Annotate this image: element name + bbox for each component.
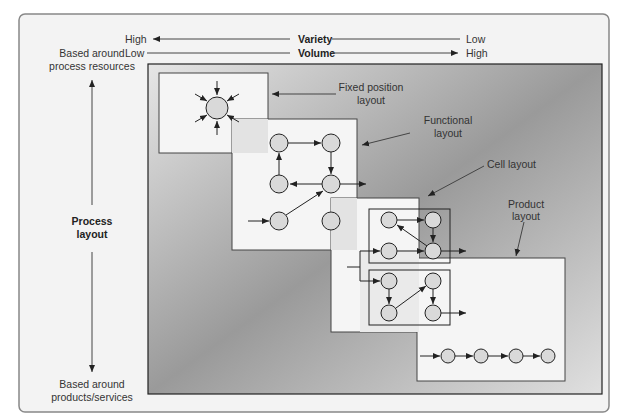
variety-right-label: Low <box>466 33 486 45</box>
process-layout-label-line2: layout <box>77 228 108 240</box>
top-label-line1: Based around <box>59 47 125 59</box>
svg-text:Fixed position: Fixed position <box>339 81 404 93</box>
variety-label: Variety <box>298 33 333 45</box>
volume-right-label: High <box>466 47 488 59</box>
svg-text:layout: layout <box>357 94 385 106</box>
top-label-line2: process resources <box>49 60 135 72</box>
volume-left-label: Low <box>125 47 145 59</box>
svg-text:Cell layout: Cell layout <box>487 158 536 170</box>
svg-text:layout: layout <box>512 210 540 222</box>
svg-text:Functional: Functional <box>424 114 472 126</box>
volume-label: Volume <box>298 47 335 59</box>
bottom-label-line1: Based around <box>59 378 125 390</box>
svg-text:layout: layout <box>434 127 462 139</box>
process-layout-label-line1: Process <box>72 215 113 227</box>
process-layout-diagram: High Variety Low Low Volume High Based a… <box>0 0 622 420</box>
svg-text:Product: Product <box>508 198 544 210</box>
bottom-label-line2: products/services <box>51 391 133 403</box>
variety-left-label: High <box>125 33 147 45</box>
